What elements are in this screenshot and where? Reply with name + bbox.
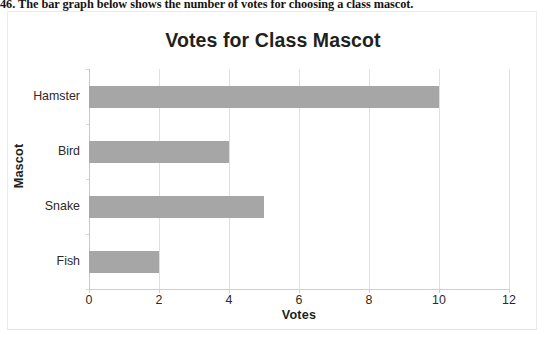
x-tick-label: 12 — [489, 293, 529, 307]
chart-title: Votes for Class Mascot — [8, 29, 538, 52]
y-tick-label: Snake — [8, 199, 80, 213]
bar-bird — [89, 141, 229, 163]
x-tick-label: 10 — [419, 293, 459, 307]
y-tick-mark — [86, 124, 89, 125]
y-tick-label: Bird — [8, 144, 80, 158]
bar-hamster — [89, 86, 439, 108]
plot-area — [89, 69, 509, 289]
y-tick-label: Fish — [8, 254, 80, 268]
y-axis-title: Mascot — [12, 131, 26, 201]
chart-container: Votes for Class Mascot Mascot Votes 0246… — [7, 11, 537, 330]
x-tick-label: 8 — [349, 293, 389, 307]
bar-snake — [89, 196, 264, 218]
y-tick-mark — [86, 289, 89, 290]
page-root: 46. The bar graph below shows the number… — [0, 0, 547, 338]
bar-fish — [89, 251, 159, 273]
x-tick-label: 6 — [279, 293, 319, 307]
y-tick-mark — [86, 69, 89, 70]
x-axis-title: Votes — [89, 308, 509, 322]
y-tick-label: Hamster — [8, 89, 80, 103]
y-tick-mark — [86, 179, 89, 180]
y-tick-mark — [86, 234, 89, 235]
x-tick-label: 4 — [209, 293, 249, 307]
x-gridline — [509, 69, 510, 289]
x-gridline — [439, 69, 440, 289]
x-tick-label: 0 — [69, 293, 109, 307]
x-tick-label: 2 — [139, 293, 179, 307]
